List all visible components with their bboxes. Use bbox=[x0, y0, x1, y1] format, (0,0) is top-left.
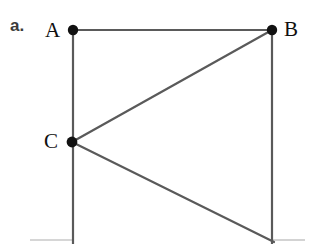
vertex-dot-c bbox=[67, 137, 78, 148]
vertex-label-b: B bbox=[284, 19, 298, 40]
geometry-figure: a. A B C bbox=[0, 0, 314, 244]
part-label: a. bbox=[10, 17, 24, 34]
vertex-label-a: A bbox=[45, 20, 60, 41]
vertex-dot-b bbox=[267, 25, 277, 35]
vertex-dot-a bbox=[68, 25, 78, 35]
edge-b-c bbox=[72, 30, 272, 142]
edge-c-bottom-right bbox=[72, 142, 274, 242]
vertex-label-c: C bbox=[44, 131, 58, 152]
